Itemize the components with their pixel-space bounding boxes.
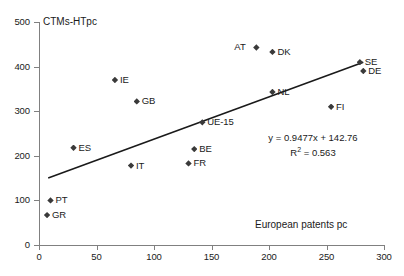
x-tick xyxy=(212,245,213,250)
x-tick-label: 300 xyxy=(364,251,404,262)
y-tick xyxy=(34,111,39,112)
x-tick xyxy=(327,245,328,250)
diamond-marker xyxy=(134,98,140,104)
x-tick-label: 0 xyxy=(19,251,59,262)
y-axis-title: CTMs-HTpc xyxy=(43,16,97,27)
diamond-marker xyxy=(128,162,134,168)
y-tick-label: 0 xyxy=(0,239,30,250)
data-point-label: ES xyxy=(79,142,91,153)
diamond-marker xyxy=(328,104,334,110)
regression-annotation: y = 0.9477x + 142.76 R2 = 0.563 xyxy=(243,132,383,159)
x-tick xyxy=(97,245,98,250)
data-point-label: IE xyxy=(120,74,129,85)
data-point-label: PT xyxy=(56,194,68,205)
y-tick xyxy=(34,200,39,201)
data-point-label: IT xyxy=(136,160,144,171)
data-point-label: GB xyxy=(142,95,156,106)
diamond-marker xyxy=(44,212,50,218)
scatter-chart: CTMs-HTpc European patents pc y = 0.9477… xyxy=(0,0,404,276)
y-tick-label: 500 xyxy=(0,16,30,27)
data-point-label: NL xyxy=(277,86,289,97)
diamond-marker xyxy=(269,89,275,95)
y-tick-label: 100 xyxy=(0,194,30,205)
diamond-marker xyxy=(253,44,259,50)
y-tick xyxy=(34,22,39,23)
y-tick xyxy=(34,67,39,68)
y-tick-label: 300 xyxy=(0,105,30,116)
data-point-label: DE xyxy=(368,65,381,76)
x-tick-label: 200 xyxy=(249,251,289,262)
x-tick-label: 250 xyxy=(307,251,347,262)
data-point-label: GR xyxy=(52,209,66,220)
x-tick xyxy=(384,245,385,250)
diamond-marker xyxy=(191,146,197,152)
diamond-marker xyxy=(360,68,366,74)
y-tick-label: 200 xyxy=(0,150,30,161)
data-point-label: BE xyxy=(199,143,211,154)
data-point-label: DK xyxy=(277,46,290,57)
data-point-label: UE-15 xyxy=(207,116,233,127)
x-tick-label: 100 xyxy=(134,251,174,262)
y-tick xyxy=(34,156,39,157)
diamond-marker xyxy=(70,145,76,151)
data-point-label: FR xyxy=(194,157,206,168)
diamond-marker xyxy=(185,160,191,166)
r2-value: = 0.563 xyxy=(301,147,336,158)
x-tick xyxy=(154,245,155,250)
regression-r2: R2 = 0.563 xyxy=(243,144,383,159)
x-axis-title: European patents pc xyxy=(255,219,347,230)
y-tick-label: 400 xyxy=(0,61,30,72)
diamond-marker xyxy=(199,119,205,125)
data-point-label: AT xyxy=(234,41,245,52)
diamond-marker xyxy=(112,77,118,83)
x-tick-label: 50 xyxy=(77,251,117,262)
x-tick xyxy=(39,245,40,250)
x-tick-label: 150 xyxy=(192,251,232,262)
regression-equation: y = 0.9477x + 142.76 xyxy=(243,132,383,144)
x-tick xyxy=(269,245,270,250)
data-point-label: FI xyxy=(336,101,344,112)
diamond-marker xyxy=(269,49,275,55)
diamond-marker xyxy=(357,59,363,65)
y-axis-line xyxy=(39,22,40,245)
diamond-marker xyxy=(47,197,53,203)
